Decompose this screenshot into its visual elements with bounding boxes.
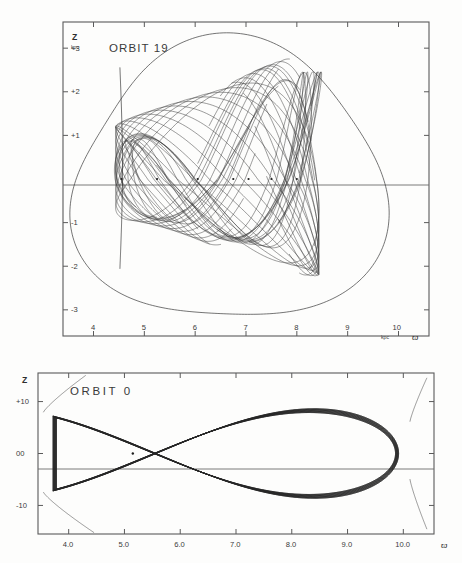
y-tick-label: -3	[71, 305, 78, 314]
x-tick-label: 9	[345, 323, 349, 332]
x-tick-labels: 4.05.06.07.08.09.010.0	[63, 540, 410, 549]
orbit-loop	[56, 412, 396, 495]
orbit-marker	[296, 178, 298, 180]
y-tick-label: +1	[71, 131, 80, 140]
orbit-marker	[197, 178, 199, 180]
orbit-19-svg: Z kpc ORBIT 19 45678910 +3+2+1-1-2-3 kpc…	[0, 0, 462, 352]
x-tick-label: 7	[244, 323, 248, 332]
y-axis-label: Z	[72, 32, 77, 42]
orbit-loop	[55, 411, 397, 497]
plot-frame	[38, 373, 434, 534]
orbit-marker	[270, 178, 272, 180]
orbit-loop	[116, 68, 319, 245]
orbit-loop	[54, 409, 398, 497]
envelope-arc	[44, 492, 94, 532]
orbit-loop	[116, 110, 319, 275]
y-tick-label: -2	[71, 262, 78, 271]
x-tick-label: 5	[142, 323, 146, 332]
orbit-loop	[55, 411, 396, 495]
y-tick-label: -1	[71, 218, 78, 227]
orbit-marker	[156, 178, 158, 180]
orbit-marker	[132, 452, 134, 454]
orbit-loop	[53, 409, 399, 498]
panel-title-orbit-19: ORBIT 19	[109, 42, 169, 54]
orbit-loop	[116, 70, 319, 266]
x-tick-labels: 45678910	[91, 323, 401, 332]
chart-panel-orbit-0: Z ORBIT 0 4.05.06.07.08.09.010.0 +1000-1…	[0, 352, 462, 563]
orbit-loop	[54, 409, 398, 497]
orbit-loop	[53, 409, 399, 498]
orbit-loop	[54, 410, 397, 497]
orbit-marker	[120, 178, 122, 180]
x-tick-label: 6.0	[174, 540, 185, 549]
orbit-loop	[54, 410, 397, 497]
figure-page: Z kpc ORBIT 19 45678910 +3+2+1-1-2-3 kpc…	[0, 0, 462, 563]
x-tick-label: 5.0	[118, 540, 129, 549]
y-axis-label: Z	[22, 375, 27, 385]
orbit-loop	[56, 413, 395, 495]
y-tick-label: +3	[71, 44, 80, 53]
orbit-loop	[116, 93, 319, 274]
x-axis-symbol: ϖ	[412, 332, 419, 342]
orbit-loop	[116, 62, 319, 275]
orbit-loop	[55, 411, 397, 497]
x-tick-label: 6	[193, 323, 197, 332]
orbit-loop	[115, 72, 305, 246]
orbit-loop	[56, 413, 395, 495]
x-axis-symbol: ϖ	[441, 540, 448, 550]
y-tick-labels: +3+2+1-1-2-3	[71, 44, 80, 315]
orbit-curves	[44, 376, 427, 533]
y-tick-label: 00	[16, 449, 24, 458]
x-axis-unit: kpc	[381, 334, 389, 340]
x-tick-label: 10	[393, 323, 401, 332]
envelope-arc	[410, 479, 427, 528]
x-tick-label: 7.0	[230, 540, 241, 549]
orbit-markers	[132, 452, 134, 454]
orbit-loop	[56, 412, 396, 495]
orbit-marker	[247, 178, 249, 180]
y-tick-labels: +1000-10	[16, 397, 29, 510]
orbit-curves	[70, 33, 389, 315]
y-tick-label: -10	[16, 501, 27, 510]
orbit-loop	[55, 411, 396, 495]
panel-title-orbit-0: ORBIT 0	[70, 385, 133, 397]
orbit-0-svg: Z ORBIT 0 4.05.06.07.08.09.010.0 +1000-1…	[0, 352, 462, 563]
plot-frame	[63, 22, 429, 336]
x-tick-label: 8	[294, 323, 298, 332]
x-tick-label: 8.0	[286, 540, 297, 549]
y-tick-label: +10	[16, 397, 29, 406]
zero-velocity-envelope	[70, 33, 389, 315]
y-axis-ticks	[38, 402, 434, 506]
envelope-arc	[410, 378, 427, 421]
x-tick-label: 4.0	[63, 540, 74, 549]
x-tick-label: 9.0	[342, 540, 353, 549]
chart-panel-orbit-19: Z kpc ORBIT 19 45678910 +3+2+1-1-2-3 kpc…	[0, 0, 462, 352]
orbit-marker	[232, 178, 234, 180]
x-tick-label: 4	[91, 323, 95, 332]
x-tick-label: 10.0	[395, 540, 410, 549]
x-axis-ticks	[69, 373, 404, 534]
y-tick-label: +2	[71, 87, 80, 96]
